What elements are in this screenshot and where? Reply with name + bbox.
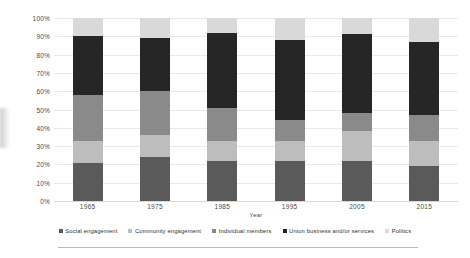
bar-segment[interactable]	[275, 120, 305, 140]
bar-segment[interactable]	[342, 161, 372, 201]
bar-slot	[256, 18, 323, 201]
bar-slot	[121, 18, 188, 201]
bar-segment[interactable]	[342, 34, 372, 113]
y-tick-label: 90%	[36, 33, 50, 40]
bar-segment[interactable]	[140, 157, 170, 201]
bar-segment[interactable]	[409, 42, 439, 115]
y-tick-label: 80%	[36, 51, 50, 58]
gridline	[54, 201, 458, 202]
bar-segment[interactable]	[140, 18, 170, 38]
y-axis: 100%90%80%70%60%50%40%30%20%10%0%	[8, 0, 50, 212]
bar-slot	[189, 18, 256, 201]
y-tick-label: 30%	[36, 143, 50, 150]
stacked-bar[interactable]	[275, 18, 305, 201]
bar-segment[interactable]	[207, 141, 237, 161]
y-tick-label: 100%	[33, 15, 50, 22]
legend-label: Individual members	[219, 228, 272, 234]
bar-segment[interactable]	[73, 18, 103, 36]
bar-segment[interactable]	[140, 135, 170, 157]
x-axis-title: Year	[54, 212, 458, 218]
bar-slot	[54, 18, 121, 201]
bar-segment[interactable]	[409, 141, 439, 167]
legend-swatch-icon	[128, 229, 132, 233]
y-tick-label: 60%	[36, 88, 50, 95]
bar-segment[interactable]	[73, 95, 103, 141]
bar-segment[interactable]	[275, 18, 305, 40]
stacked-bar-chart: 100%90%80%70%60%50%40%30%20%10%0% 196519…	[0, 0, 470, 258]
legend-label: Politics	[392, 228, 412, 234]
legend-swatch-icon	[283, 229, 287, 233]
bar-segment[interactable]	[409, 115, 439, 141]
bar-group	[54, 18, 458, 201]
y-tick-label: 0%	[40, 198, 50, 205]
y-tick-label: 50%	[36, 106, 50, 113]
stacked-bar[interactable]	[140, 18, 170, 201]
bar-segment[interactable]	[342, 18, 372, 34]
bar-slot	[391, 18, 458, 201]
bar-segment[interactable]	[207, 161, 237, 201]
bar-slot	[323, 18, 390, 201]
y-tick-label: 70%	[36, 69, 50, 76]
bar-segment[interactable]	[207, 18, 237, 33]
y-tick-label: 40%	[36, 124, 50, 131]
legend-label: Social engagement	[65, 228, 117, 234]
bar-segment[interactable]	[73, 141, 103, 163]
plot-wrapper: 100%90%80%70%60%50%40%30%20%10%0% 196519…	[0, 0, 470, 212]
bar-segment[interactable]	[342, 131, 372, 160]
legend-swatch-icon	[212, 229, 216, 233]
bar-segment[interactable]	[207, 33, 237, 108]
legend-item[interactable]: Union business and/or services	[283, 228, 375, 234]
bar-segment[interactable]	[275, 161, 305, 201]
bar-segment[interactable]	[73, 163, 103, 201]
bar-segment[interactable]	[409, 166, 439, 201]
legend-swatch-icon	[59, 229, 63, 233]
bar-segment[interactable]	[73, 36, 103, 95]
y-tick-label: 10%	[36, 179, 50, 186]
plot-area	[54, 18, 458, 201]
bar-segment[interactable]	[140, 38, 170, 91]
legend-item[interactable]: Community engagement	[128, 228, 201, 234]
bar-segment[interactable]	[275, 40, 305, 121]
stacked-bar[interactable]	[207, 18, 237, 201]
bar-segment[interactable]	[207, 108, 237, 141]
bar-segment[interactable]	[409, 18, 439, 42]
bar-segment[interactable]	[140, 91, 170, 135]
legend-label: Community engagement	[135, 228, 201, 234]
legend-swatch-icon	[385, 229, 389, 233]
y-tick-label: 20%	[36, 161, 50, 168]
stacked-bar[interactable]	[342, 18, 372, 201]
stacked-bar[interactable]	[73, 18, 103, 201]
legend-label: Union business and/or services	[289, 228, 374, 234]
bar-segment[interactable]	[275, 141, 305, 161]
legend-item[interactable]: Individual members	[212, 228, 271, 234]
bar-segment[interactable]	[342, 113, 372, 131]
chart-legend: Social engagementCommunity engagementInd…	[0, 228, 470, 234]
stacked-bar[interactable]	[409, 18, 439, 201]
legend-item[interactable]: Social engagement	[59, 228, 118, 234]
legend-item[interactable]: Politics	[385, 228, 411, 234]
page-divider-rule	[58, 247, 418, 248]
